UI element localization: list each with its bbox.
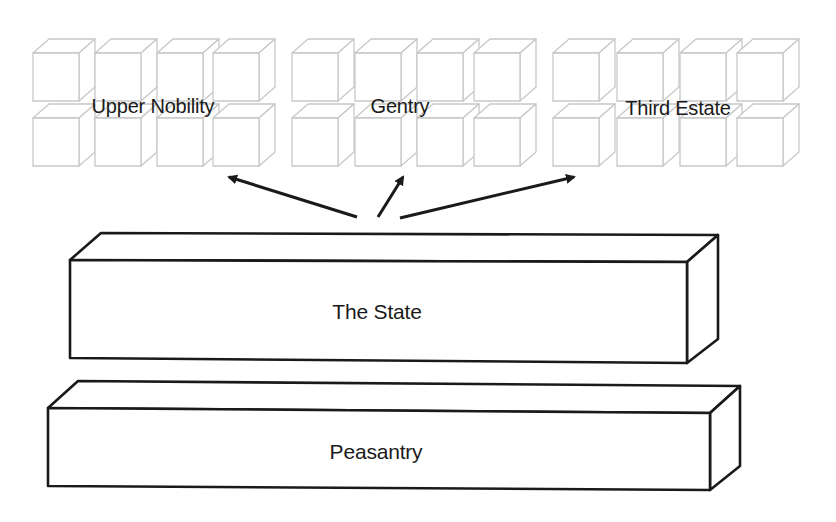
group-label-third-estate: Third Estate <box>625 97 730 120</box>
cube-icon <box>553 39 615 101</box>
arrows <box>229 177 574 218</box>
bar-the-state <box>70 233 718 363</box>
cube-icon <box>213 39 275 101</box>
cube-icon <box>553 104 615 166</box>
arrow-to-gentry <box>378 177 403 217</box>
cube-icon <box>157 39 219 101</box>
cube-icon <box>292 104 354 166</box>
cube-icon <box>617 39 679 101</box>
cube-icon <box>95 39 157 101</box>
cube-icon <box>355 39 417 101</box>
cube-icon <box>33 39 95 101</box>
arrow-to-upper-nobility <box>229 177 357 217</box>
group-label-gentry: Gentry <box>371 95 430 118</box>
bar-peasantry <box>48 381 740 490</box>
bar-label-peasantry: Peasantry <box>330 440 423 464</box>
group-label-upper-nobility: Upper Nobility <box>92 95 215 118</box>
cube-icon <box>680 39 742 101</box>
cube-icon <box>292 39 354 101</box>
bar-label-the-state: The State <box>332 300 421 324</box>
diagram-canvas: Upper Nobility Gentry Third Estate The S… <box>0 0 836 522</box>
cube-icon <box>737 39 799 101</box>
cube-icon <box>474 104 536 166</box>
arrow-to-third-estate <box>400 177 574 218</box>
cube-icon <box>33 104 95 166</box>
cube-icon <box>213 104 275 166</box>
cube-icon <box>417 39 479 101</box>
cube-icon <box>474 39 536 101</box>
cube-icon <box>737 104 799 166</box>
